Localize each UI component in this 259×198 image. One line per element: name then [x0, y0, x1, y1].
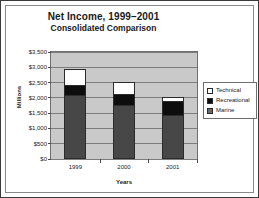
bar-segment-technical[interactable] — [113, 82, 135, 95]
legend-swatch-icon-technical — [207, 88, 213, 94]
y-axis-tick-label: $2,000 — [29, 95, 47, 101]
legend-item-marine: Marine — [207, 106, 254, 115]
x-axis-tick-mark — [148, 159, 149, 163]
bar-group — [51, 52, 100, 159]
y-axis-tick-label: $2,500 — [29, 80, 47, 86]
y-axis-tick-label: $1,500 — [29, 110, 47, 116]
chart-inner-frame: Net Income, 1999–2001 Consolidated Compa… — [5, 5, 254, 193]
bar-segment-marine[interactable] — [162, 115, 184, 159]
bar-group — [148, 52, 197, 159]
legend-label-marine: Marine — [216, 107, 234, 114]
chart-title: Net Income, 1999–2001 — [6, 11, 201, 23]
legend-label-recreational: Recreational — [216, 97, 250, 104]
chart-subtitle: Consolidated Comparison — [6, 23, 201, 34]
title-block: Net Income, 1999–2001 Consolidated Compa… — [6, 11, 201, 34]
bar-segment-marine[interactable] — [113, 105, 135, 159]
x-axis-title: Years — [50, 179, 198, 185]
legend-label-technical: Technical — [216, 87, 241, 94]
legend-swatch-icon-recreational — [207, 98, 213, 104]
plot-area: $0$500$1,000$1,500$2,000$2,500$3,000$3,5… — [50, 51, 198, 160]
bar-segment-recreational[interactable] — [162, 101, 184, 115]
legend-swatch-icon-marine — [207, 108, 213, 114]
chart-legend: Technical Recreational Marine — [203, 82, 257, 119]
bar-segment-marine[interactable] — [64, 95, 86, 159]
y-axis-tick-label: $3,500 — [29, 49, 47, 55]
x-axis-tick-mark — [100, 159, 101, 163]
bar-segment-recreational[interactable] — [113, 94, 135, 106]
chart-figure: Net Income, 1999–2001 Consolidated Compa… — [0, 0, 259, 198]
y-axis-tick-label: $3,000 — [29, 64, 47, 70]
x-axis-tick-label: 1999 — [69, 164, 82, 170]
bar-group — [100, 52, 149, 159]
bar-segment-technical[interactable] — [64, 69, 86, 86]
bar-segment-recreational[interactable] — [64, 85, 86, 97]
y-axis-tick-label: $1,000 — [29, 125, 47, 131]
x-axis-tick-label: 2000 — [117, 164, 130, 170]
y-axis-tick-label: $0 — [40, 156, 47, 162]
x-axis-tick-mark — [197, 159, 198, 163]
y-axis-title: Millions — [16, 67, 22, 127]
y-axis-tick-label: $500 — [34, 141, 47, 147]
legend-item-recreational: Recreational — [207, 96, 254, 105]
x-axis-tick-label: 2001 — [166, 164, 179, 170]
bar-segment-technical[interactable] — [162, 97, 184, 103]
legend-item-technical: Technical — [207, 86, 254, 95]
